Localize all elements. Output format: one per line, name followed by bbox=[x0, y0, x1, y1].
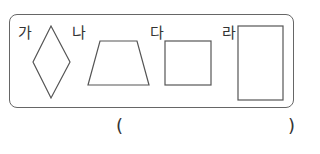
trapezoid-shape bbox=[88, 41, 149, 85]
answer-open-paren: ( bbox=[116, 116, 123, 136]
answer-close-paren: ) bbox=[288, 116, 295, 136]
rhombus-shape bbox=[33, 26, 70, 98]
rectangle-shape bbox=[238, 26, 283, 100]
square-shape bbox=[165, 41, 211, 85]
answer-blank[interactable] bbox=[130, 116, 280, 136]
